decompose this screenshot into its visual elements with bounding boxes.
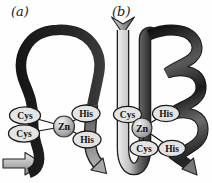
his-bottom-node-a: His [73,131,101,148]
zinc-finger-figure: (a) Cys Cys His His [0,0,212,183]
cys-top-label-b: Cys [120,110,136,120]
zn-label-a: Zn [58,121,71,132]
zn-node-a: Zn [54,116,75,137]
cys-bottom-label-b: Cys [136,144,152,154]
his-top-label-b: His [159,109,173,119]
his-bottom-label-a: His [80,135,94,145]
cys-top-label-a: Cys [17,111,33,121]
zn-node-b: Zn [132,118,152,138]
zn-label-b: Zn [136,123,149,134]
his-bottom-label-b: His [165,144,179,154]
his-top-node-b: His [153,105,180,121]
cys-top-node-a: Cys [10,107,41,124]
his-top-label-a: His [79,109,93,119]
his-top-node-a: His [72,105,100,122]
cys-bottom-node-a: Cys [9,125,40,142]
figure: (a) Cys Cys His His [0,0,212,183]
his-bottom-node-b: His [159,140,186,156]
cys-bottom-node-b: Cys [130,140,158,156]
panel-b-label: (b) [112,4,130,19]
panel-a-label: (a) [11,4,29,19]
cys-bottom-label-a: Cys [16,129,32,139]
